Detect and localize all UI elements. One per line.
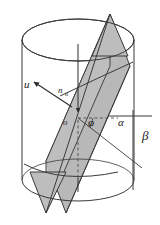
label-angle-phi: φ bbox=[88, 116, 94, 128]
label-angle-alpha: α bbox=[118, 116, 124, 128]
label-angle-beta: β bbox=[141, 128, 149, 143]
label-normal-n-subscript: u bbox=[65, 91, 68, 97]
label-origin-o: o bbox=[63, 117, 68, 127]
cylinder-plane-diagram: u n u o φ α β bbox=[0, 0, 160, 225]
figure-container: u n u o φ α β bbox=[0, 0, 160, 225]
label-vector-u: u bbox=[24, 78, 30, 90]
label-normal-n: n bbox=[58, 85, 63, 95]
